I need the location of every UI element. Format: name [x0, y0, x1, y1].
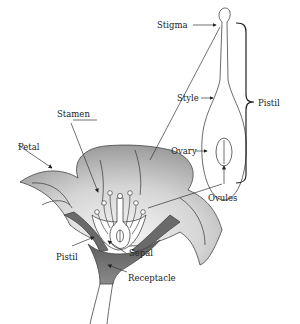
label-receptacle: Receptacle — [128, 273, 176, 283]
label-ovules: Ovules — [208, 193, 237, 203]
label-pistil-flower: Pistil — [56, 252, 78, 262]
label-petal: Petal — [18, 142, 40, 152]
label-ovary: Ovary — [171, 146, 197, 156]
stem — [90, 280, 113, 324]
label-sepal: Sepal — [129, 248, 153, 258]
label-style: Style — [177, 93, 199, 103]
label-stigma: Stigma — [157, 20, 188, 30]
label-pistil-bracket: Pistil — [258, 98, 280, 108]
flower-diagram: Stigma Style Pistil Ovary Ovules Stamen … — [0, 0, 300, 324]
label-stamen: Stamen — [57, 109, 90, 119]
